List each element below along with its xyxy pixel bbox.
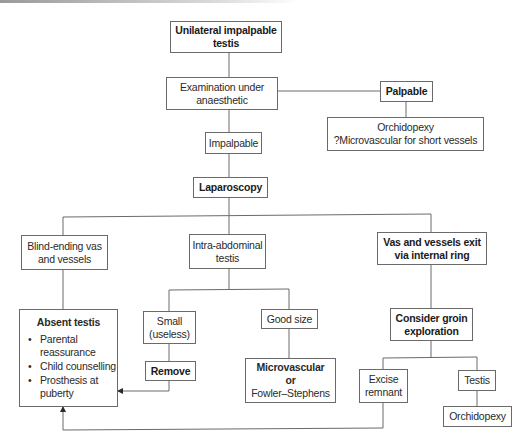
node-text: Blind-ending vas <box>27 240 101 253</box>
node-consider-groin-exploration: Consider groin exploration <box>390 308 473 341</box>
node-good-size: Good size <box>261 309 318 329</box>
node-absent-testis: Absent testis Parental reassurance Child… <box>19 309 118 407</box>
node-text: Unilateral impalpable <box>175 24 276 37</box>
list-item: Child counselling <box>40 360 116 373</box>
node-excise-remnant: Excise remnant <box>359 369 408 403</box>
node-text: Good size <box>267 313 312 326</box>
node-text: Excise <box>369 373 399 386</box>
node-orchidopexy-microvascular: Orchidopexy ?Microvascular for short ves… <box>327 117 484 151</box>
node-text: or <box>285 374 295 387</box>
node-text: Testis <box>464 374 490 387</box>
node-blind-ending-vas: Blind-ending vas and vessels <box>21 235 108 270</box>
list-item-text: Parental <box>40 333 116 346</box>
node-text: ?Microvascular for short vessels <box>334 134 478 147</box>
node-text: Microvascular <box>256 361 324 374</box>
node-text: Palpable <box>386 85 428 98</box>
node-text: Consider groin <box>396 312 468 325</box>
node-text: Orchidopexy <box>449 410 506 423</box>
list-item-text: Child counselling <box>40 360 116 373</box>
node-text: via internal ring <box>395 249 470 262</box>
node-intra-abdominal-testis: Intra-abdominal testis <box>189 234 266 269</box>
node-vas-vessels-exit: Vas and vessels exit via internal ring <box>377 232 487 265</box>
list-item: Parental reassurance <box>40 333 116 359</box>
node-text: Impalpable <box>209 137 258 150</box>
list-item: Prosthesis at puberty <box>40 374 116 400</box>
node-text: testis <box>213 37 239 50</box>
node-text: Examination under <box>180 81 264 94</box>
node-text: Small <box>157 315 182 328</box>
node-title: Absent testis <box>37 316 100 329</box>
node-remove: Remove <box>145 361 196 381</box>
list-item-text: puberty <box>40 387 116 400</box>
list-item-text: Prosthesis at <box>40 374 116 387</box>
node-text: Vas and vessels exit <box>383 236 481 249</box>
node-examination-under-anaesthetic: Examination under anaesthetic <box>166 77 278 110</box>
node-unilateral-impalpable-testis: Unilateral impalpable testis <box>170 21 282 53</box>
node-impalpable: Impalpable <box>205 132 262 154</box>
node-text: Fowler–Stephens <box>251 387 330 400</box>
node-orchidopexy: Orchidopexy <box>443 406 512 427</box>
node-microvascular-fowler-stephens: Microvascular or Fowler–Stephens <box>245 358 336 403</box>
node-text: anaesthetic <box>196 94 248 107</box>
node-text: exploration <box>404 325 458 338</box>
absent-testis-list: Parental reassurance Child counselling P… <box>26 333 116 401</box>
node-testis: Testis <box>458 370 496 391</box>
node-small-useless: Small (useless) <box>143 311 196 344</box>
node-laparoscopy: Laparoscopy <box>193 177 268 198</box>
node-text: Orchidopexy <box>377 121 434 134</box>
node-text: testis <box>216 252 239 265</box>
node-text: Intra-abdominal <box>193 239 263 252</box>
node-text: Remove <box>151 365 191 378</box>
node-text: and vessels <box>38 253 91 266</box>
node-text: (useless) <box>149 328 190 341</box>
node-text: Laparoscopy <box>199 181 262 194</box>
list-item-text: reassurance <box>40 346 116 359</box>
node-palpable: Palpable <box>380 81 433 102</box>
node-text: remnant <box>365 386 402 399</box>
